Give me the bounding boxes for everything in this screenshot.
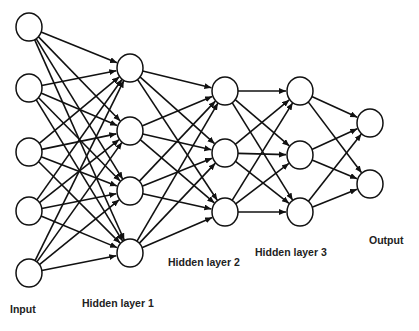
edge-arrow xyxy=(139,163,215,243)
neuron-node xyxy=(357,170,383,198)
edge-arrow xyxy=(42,134,117,150)
neuron-node xyxy=(212,139,238,167)
neuron-node xyxy=(357,109,383,137)
edge-arrow xyxy=(41,93,117,125)
neuron-node xyxy=(117,177,143,205)
neuron-nodes xyxy=(16,13,383,287)
layer-label-hidden-2: Hidden layer 2 xyxy=(168,256,240,268)
edge-arrow xyxy=(41,32,117,63)
neuron-node xyxy=(16,138,42,166)
neuron-node xyxy=(16,197,42,225)
network-diagram xyxy=(0,0,419,331)
neuron-node xyxy=(117,117,143,145)
layer-label-input: Input xyxy=(10,303,36,315)
neuron-node xyxy=(117,239,143,267)
layer-label-hidden-3: Hidden layer 3 xyxy=(255,246,327,258)
edge-arrow xyxy=(39,200,119,265)
edge-arrow xyxy=(308,134,361,202)
edge-arrow xyxy=(312,96,357,117)
edge-arrow xyxy=(312,129,357,150)
edge-arrow xyxy=(139,101,215,181)
neuron-node xyxy=(117,54,143,82)
edge-arrow xyxy=(42,256,117,271)
edge-arrow xyxy=(137,79,217,200)
neuron-node xyxy=(287,77,313,105)
edge-arrow xyxy=(140,77,215,144)
edge-arrow xyxy=(42,71,117,86)
edge-arrow xyxy=(143,71,212,88)
layer-label-output: Output xyxy=(369,234,403,246)
neuron-node xyxy=(212,198,238,226)
edge-arrow xyxy=(312,189,357,207)
neuron-node xyxy=(16,259,42,287)
edge-arrow xyxy=(42,194,117,209)
edge-arrow xyxy=(142,218,212,248)
neuron-node xyxy=(212,77,238,105)
neuron-node xyxy=(16,13,42,41)
edge-arrow xyxy=(143,194,212,209)
neuron-node xyxy=(16,74,42,102)
layer-label-hidden-1: Hidden layer 1 xyxy=(82,297,154,309)
neuron-node xyxy=(287,198,313,226)
neuron-node xyxy=(287,141,313,169)
